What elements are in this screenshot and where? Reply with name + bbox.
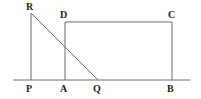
vertex-label-q: Q (93, 84, 101, 94)
vertex-label-p: P (26, 84, 32, 94)
geometry-figure: P A Q B R D C (0, 0, 201, 99)
vertex-label-r: R (26, 2, 33, 12)
vertex-label-a: A (60, 84, 67, 94)
vertex-label-b: B (167, 84, 174, 94)
vertex-label-c: C (168, 10, 175, 20)
segments-group (13, 13, 190, 80)
vertex-label-d: D (60, 10, 67, 20)
